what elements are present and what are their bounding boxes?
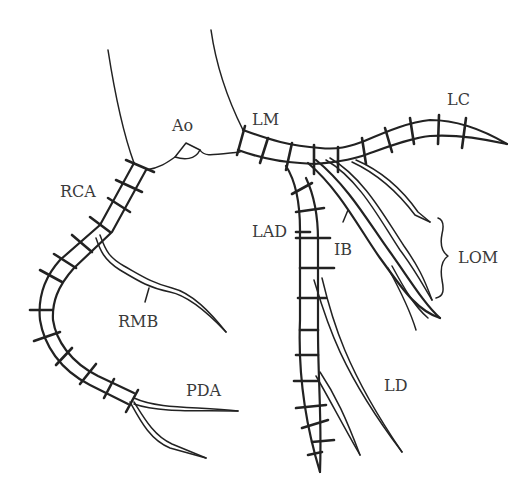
label-ld: LD <box>384 378 407 394</box>
aortic-wall-right <box>211 30 243 130</box>
label-lom: LOM <box>458 250 498 266</box>
ld-vessel <box>314 280 402 452</box>
label-rmb: RMB <box>118 314 158 330</box>
vessel-drawing <box>0 0 531 491</box>
label-lad: LAD <box>252 224 287 240</box>
coronary-diagram: Ao LM LC RCA LAD IB LOM RMB PDA LD <box>0 0 531 491</box>
lom-vessel <box>326 160 432 300</box>
label-ib: IB <box>334 242 352 258</box>
aortic-wall-left <box>108 50 134 163</box>
lom-brace <box>436 218 448 298</box>
label-lc: LC <box>447 92 470 108</box>
label-pda: PDA <box>186 383 221 399</box>
lad-ticks <box>292 183 334 455</box>
label-lm: LM <box>252 112 279 128</box>
lm-vessel <box>243 120 507 149</box>
label-ao: Ao <box>172 118 193 134</box>
label-rca: RCA <box>60 184 96 200</box>
